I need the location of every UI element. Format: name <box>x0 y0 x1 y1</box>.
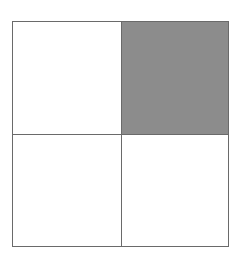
quadrant-grid <box>12 21 229 247</box>
cell-bottom-left <box>12 134 122 247</box>
cell-bottom-right <box>121 134 229 247</box>
cell-top-left <box>12 21 122 135</box>
cell-top-right-shaded <box>121 21 229 135</box>
